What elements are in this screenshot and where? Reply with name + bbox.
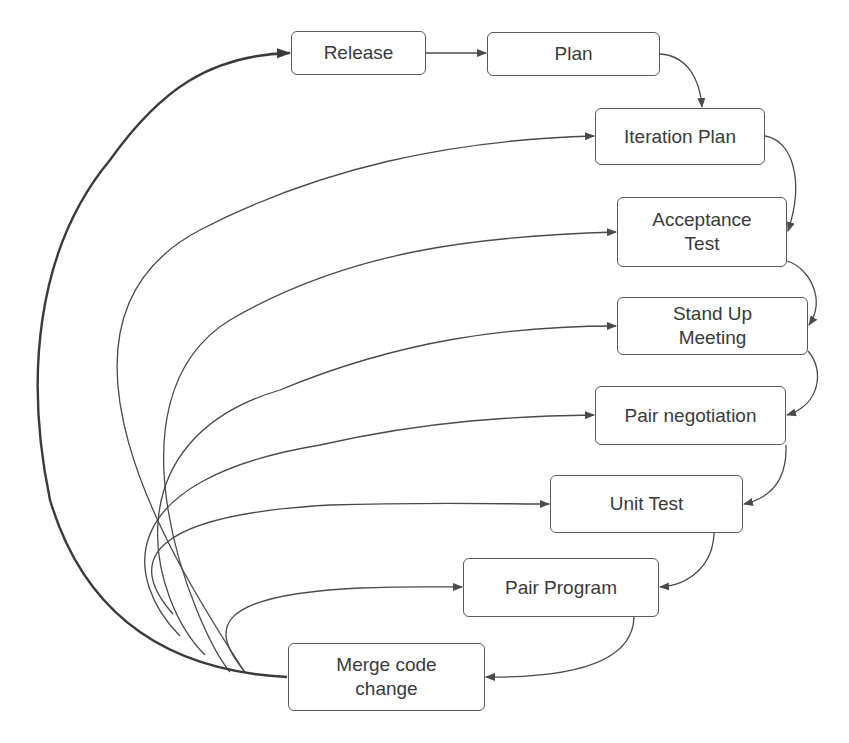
node-merge-line2: change xyxy=(355,677,417,701)
node-pair-negotiation: Pair negotiation xyxy=(595,386,786,445)
node-pair-negotiation-label: Pair negotiation xyxy=(624,404,756,428)
node-merge-code-change: Merge code change xyxy=(288,643,485,711)
node-acceptance-test-line1: Acceptance xyxy=(652,208,751,232)
node-unit-test-label: Unit Test xyxy=(610,492,684,516)
node-pair-program: Pair Program xyxy=(463,558,659,617)
node-acceptance-test: Acceptance Test xyxy=(617,197,787,267)
node-release-label: Release xyxy=(324,41,394,65)
edge-merge-release xyxy=(38,53,290,677)
node-plan-label: Plan xyxy=(554,42,592,66)
node-stand-up-line1: Stand Up xyxy=(673,302,752,326)
edge-pairneg-unittest xyxy=(744,445,786,504)
edge-unittest-pairprogram xyxy=(660,533,714,587)
node-plan: Plan xyxy=(487,32,660,76)
node-merge-line1: Merge code xyxy=(336,653,436,677)
node-stand-up-line2: Meeting xyxy=(679,326,747,350)
node-pair-program-label: Pair Program xyxy=(505,576,617,600)
node-acceptance-test-line2: Test xyxy=(685,232,720,256)
edge-standup-pairneg xyxy=(787,351,818,415)
node-release: Release xyxy=(291,31,426,75)
edge-plan-iteration xyxy=(660,54,702,107)
edge-pairprogram-merge xyxy=(486,617,634,677)
node-iteration-plan: Iteration Plan xyxy=(595,108,765,165)
node-stand-up-meeting: Stand Up Meeting xyxy=(617,297,808,355)
node-iteration-plan-label: Iteration Plan xyxy=(624,125,736,149)
node-unit-test: Unit Test xyxy=(550,475,743,533)
